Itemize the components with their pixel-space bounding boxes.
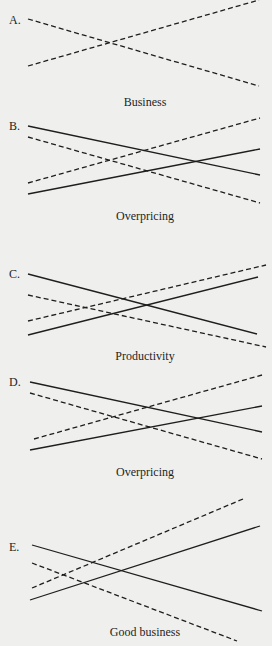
dashed-line [28, 19, 259, 86]
panel-e-caption: Good business [0, 626, 272, 638]
panel-a-caption: Business [0, 96, 272, 108]
panel-d-lines [30, 375, 262, 459]
panel-c-caption: Productivity [0, 350, 272, 362]
solid-line [28, 274, 257, 334]
panel-d-label: D. [9, 376, 21, 388]
panel-a-lines [28, 0, 259, 86]
dashed-line [28, 295, 266, 347]
solid-line [28, 149, 260, 194]
solid-line [32, 545, 262, 611]
panel-b-label: B. [9, 120, 20, 132]
dashed-line [28, 137, 260, 203]
panel-e-lines [30, 499, 262, 641]
dashed-line [28, 0, 259, 66]
dashed-line [28, 118, 260, 183]
dashed-line [30, 393, 262, 459]
panel-d-caption: Overpricing [0, 466, 272, 478]
solid-line [30, 406, 262, 450]
panel-c-label: C. [9, 268, 20, 280]
panel-c-lines [28, 265, 266, 347]
panel-a-label: A. [9, 14, 21, 26]
solid-line [30, 526, 260, 600]
panel-e-label: E. [9, 541, 19, 553]
panel-b-lines [28, 118, 260, 203]
panel-b-caption: Overpricing [0, 210, 272, 222]
solid-line [28, 277, 258, 335]
dashed-line [28, 265, 266, 321]
